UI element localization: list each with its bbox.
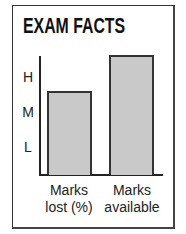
category-label-line1: Marks bbox=[101, 182, 163, 199]
y-tick-high: H bbox=[22, 70, 34, 84]
bar-marks-lost bbox=[47, 91, 92, 175]
y-tick-medium: M bbox=[22, 105, 34, 119]
y-axis-line bbox=[39, 56, 41, 176]
category-label-marks-available: Marks available bbox=[101, 182, 163, 216]
category-label-marks-lost: Marks lost (%) bbox=[39, 182, 99, 216]
category-label-line2: lost (%) bbox=[39, 199, 99, 216]
category-label-line1: Marks bbox=[39, 182, 99, 199]
chart-title: EXAM FACTS bbox=[23, 14, 125, 38]
category-label-line2: available bbox=[101, 199, 163, 216]
y-tick-low: L bbox=[22, 140, 34, 154]
bar-marks-available bbox=[109, 55, 154, 175]
